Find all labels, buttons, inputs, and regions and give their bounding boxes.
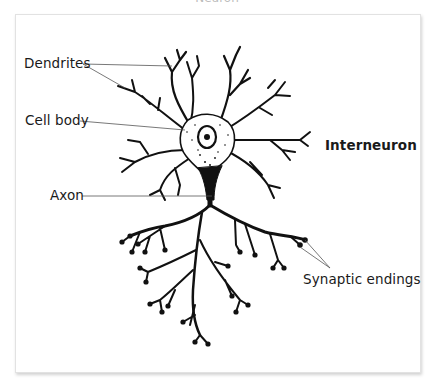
label-axon: Axon [50, 187, 84, 203]
label-dendrites: Dendrites [24, 55, 91, 71]
label-synaptic-endings: Synaptic endings [303, 271, 421, 287]
label-interneuron: Interneuron [325, 137, 417, 153]
label-cell-body: Cell body [25, 112, 89, 128]
